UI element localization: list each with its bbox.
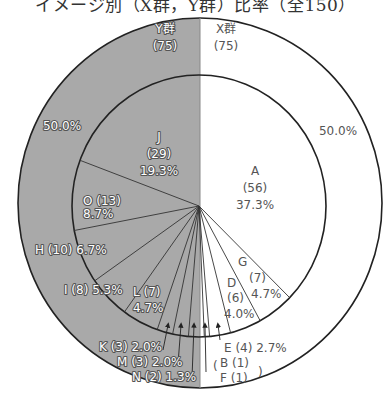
slice-label-O-name: O (13)	[83, 194, 121, 208]
slice-label-L-name: L (7)	[133, 285, 161, 299]
slice-label-D-count: (6)	[227, 291, 244, 305]
slice-label-J-name: J	[156, 130, 161, 144]
nested-pie-chart: Y群 (75) X群 (75) 50.0% 50.0% J (29) 19.3%…	[0, 0, 391, 394]
slice-label-J-count: (29)	[147, 147, 172, 161]
outer-ring-x-group	[200, 18, 382, 388]
y-group-count: (75)	[153, 39, 178, 53]
slice-label-G-count: (7)	[249, 271, 266, 285]
slice-label-I: I (8) 5.3%	[64, 283, 123, 297]
slice-label-G-pct: 4.7%	[251, 287, 282, 301]
slice-label-O-pct: 8.7%	[83, 207, 114, 221]
bracket-right: )	[258, 365, 263, 379]
slice-label-D-pct: 4.0%	[224, 307, 255, 321]
slice-label-A-count: (56)	[243, 181, 268, 195]
bracket-left: (	[213, 359, 218, 373]
slice-label-D-name: D	[227, 276, 236, 290]
slice-label-B: B (1)	[220, 356, 249, 370]
slice-label-J-pct: 19.3%	[140, 164, 178, 178]
slice-label-K: K (3) 2.0%	[99, 340, 162, 354]
slice-label-H: H (10) 6.7%	[35, 243, 107, 257]
slice-label-N: N (2) 1.3%	[132, 370, 196, 384]
slice-label-F: F (1)	[220, 371, 248, 385]
x-group-percent: 50.0%	[319, 124, 357, 138]
slice-label-E: E (4) 2.7%	[224, 341, 287, 355]
slice-label-G-name: G	[238, 255, 247, 269]
y-group-percent: 50.0%	[43, 119, 81, 133]
slice-label-M: M (3) 2.0%	[117, 355, 182, 369]
slice-label-L-pct: 4.7%	[133, 301, 164, 315]
x-group-label: X群	[216, 22, 236, 36]
slice-label-A-name: A	[251, 164, 260, 178]
y-group-label: Y群	[154, 22, 174, 36]
x-group-count: (75)	[214, 39, 239, 53]
slice-label-A-pct: 37.3%	[236, 198, 274, 212]
